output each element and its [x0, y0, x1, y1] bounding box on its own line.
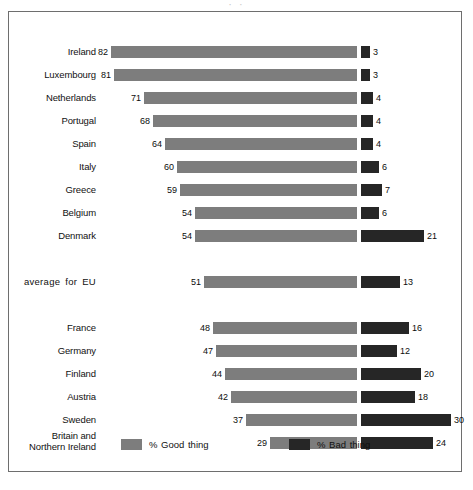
- value-label-bad-thing: 30: [454, 413, 473, 427]
- chart-row: Greece597: [9, 183, 461, 197]
- chart-row: Netherlands714: [9, 91, 461, 105]
- chart-row: France4816: [9, 321, 461, 335]
- value-label-good-thing: 47: [193, 344, 213, 358]
- bar-bad-thing: [361, 115, 373, 127]
- chart-row: Germany4712: [9, 344, 461, 358]
- value-label-bad-thing: 6: [382, 206, 404, 220]
- bar-good-thing: [195, 207, 357, 219]
- chart-row: Sweden3730: [9, 413, 461, 427]
- row-label: Spain: [9, 137, 96, 151]
- value-label-bad-thing: 12: [400, 344, 422, 358]
- value-label-good-thing: 82: [88, 45, 108, 59]
- value-label-bad-thing: 13: [403, 275, 425, 289]
- value-label-bad-thing: 3: [373, 45, 395, 59]
- row-label: Ireland: [9, 45, 96, 59]
- bar-bad-thing: [361, 368, 421, 380]
- chart-legend: % Good thing % Bad thing: [9, 437, 461, 453]
- chart-row: Luxembourg813: [9, 68, 461, 82]
- legend-label-good-thing: % Good thing: [149, 437, 209, 453]
- value-label-good-thing: 42: [208, 390, 228, 404]
- row-label: France: [9, 321, 96, 335]
- bar-good-thing: [144, 92, 357, 104]
- bar-good-thing: [111, 46, 357, 58]
- bar-bad-thing: [361, 276, 400, 288]
- bar-good-thing: [225, 368, 357, 380]
- bar-bad-thing: [361, 391, 415, 403]
- chart-row: Finland4420: [9, 367, 461, 381]
- plot-area: Ireland823Luxembourg813Netherlands714Por…: [9, 12, 461, 471]
- bar-bad-thing: [361, 322, 409, 334]
- chart-row: Spain644: [9, 137, 461, 151]
- value-label-bad-thing: 4: [376, 91, 398, 105]
- bar-bad-thing: [361, 46, 370, 58]
- bar-good-thing: [204, 276, 357, 288]
- bar-good-thing: [216, 345, 357, 357]
- value-label-good-thing: 54: [172, 229, 192, 243]
- value-label-good-thing: 71: [121, 91, 141, 105]
- chart-row: Belgium546: [9, 206, 461, 220]
- value-label-bad-thing: 4: [376, 137, 398, 151]
- row-label: Austria: [9, 390, 96, 404]
- bar-good-thing: [177, 161, 357, 173]
- value-label-good-thing: 48: [190, 321, 210, 335]
- row-label: Germany: [9, 344, 96, 358]
- value-label-good-thing: 68: [130, 114, 150, 128]
- value-label-good-thing: 37: [223, 413, 243, 427]
- bar-good-thing: [195, 230, 357, 242]
- row-label: Luxembourg: [9, 68, 96, 82]
- value-label-good-thing: 51: [181, 275, 201, 289]
- value-label-bad-thing: 21: [427, 229, 449, 243]
- bar-good-thing: [246, 414, 357, 426]
- row-label: average for EU: [9, 275, 96, 289]
- chart-row: average for EU5113: [9, 275, 461, 289]
- value-label-good-thing: 44: [202, 367, 222, 381]
- chart-row: Italy606: [9, 160, 461, 174]
- bar-bad-thing: [361, 207, 379, 219]
- chart-row: Denmark5421: [9, 229, 461, 243]
- bar-good-thing: [153, 115, 357, 127]
- bar-bad-thing: [361, 184, 382, 196]
- value-label-good-thing: 64: [142, 137, 162, 151]
- bar-bad-thing: [361, 230, 424, 242]
- row-label: Finland: [9, 367, 96, 381]
- value-label-bad-thing: 16: [412, 321, 434, 335]
- bar-bad-thing: [361, 414, 451, 426]
- bar-bad-thing: [361, 138, 373, 150]
- bar-bad-thing: [361, 161, 379, 173]
- chart-row: Ireland823: [9, 45, 461, 59]
- row-label: Belgium: [9, 206, 96, 220]
- row-label: Greece: [9, 183, 96, 197]
- value-label-bad-thing: 6: [382, 160, 404, 174]
- chart-row: Portugal684: [9, 114, 461, 128]
- row-label: Denmark: [9, 229, 96, 243]
- title-remnant: · ·: [0, 0, 473, 9]
- bar-good-thing: [180, 184, 357, 196]
- bad-thing-swatch: [289, 439, 310, 450]
- chart-frame: Ireland823Luxembourg813Netherlands714Por…: [8, 11, 462, 472]
- bar-good-thing: [213, 322, 357, 334]
- bar-bad-thing: [361, 92, 373, 104]
- row-label: Italy: [9, 160, 96, 174]
- value-label-good-thing: 60: [154, 160, 174, 174]
- bar-good-thing: [165, 138, 357, 150]
- row-label: Netherlands: [9, 91, 96, 105]
- value-label-bad-thing: 3: [373, 68, 395, 82]
- bar-bad-thing: [361, 345, 397, 357]
- bar-bad-thing: [361, 69, 370, 81]
- bar-good-thing: [231, 391, 357, 403]
- value-label-bad-thing: 4: [376, 114, 398, 128]
- value-label-bad-thing: 7: [385, 183, 407, 197]
- row-label: Sweden: [9, 413, 96, 427]
- row-label: Portugal: [9, 114, 96, 128]
- value-label-good-thing: 81: [91, 68, 111, 82]
- chart-row: Austria4218: [9, 390, 461, 404]
- legend-label-bad-thing: % Bad thing: [317, 437, 370, 453]
- value-label-bad-thing: 18: [418, 390, 440, 404]
- value-label-bad-thing: 20: [424, 367, 446, 381]
- good-thing-swatch: [121, 439, 142, 450]
- value-label-good-thing: 59: [157, 183, 177, 197]
- bar-good-thing: [114, 69, 357, 81]
- value-label-good-thing: 54: [172, 206, 192, 220]
